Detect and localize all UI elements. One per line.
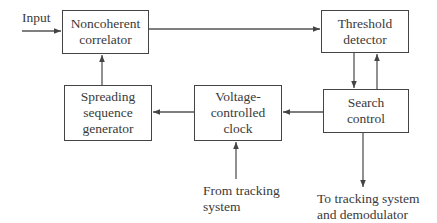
to-tracking-label: To tracking system and demodulator [317, 191, 420, 223]
input-label: Input [22, 10, 51, 26]
block-label-line: controlled [211, 105, 266, 121]
threshold-detector-block: Threshold detector [321, 10, 409, 53]
block-label-line: Voltage- [215, 89, 261, 105]
block-label-line: correlator [79, 32, 131, 48]
block-label-line: Search [348, 95, 385, 111]
block-label-line: detector [343, 32, 386, 48]
voltage-controlled-clock-block: Voltage- controlled clock [194, 85, 282, 141]
block-label-line: Spreading [81, 89, 136, 105]
search-control-block: Search control [323, 89, 409, 133]
label-line: To tracking system [317, 191, 420, 207]
label-line: system [203, 199, 280, 215]
label-line: and demodulator [317, 207, 420, 223]
from-tracking-label: From tracking system [203, 183, 280, 215]
block-label-line: Noncoherent [71, 16, 141, 32]
block-label-line: Threshold [338, 16, 393, 32]
block-label-line: clock [223, 121, 252, 137]
spreading-sequence-generator-block: Spreading sequence generator [64, 85, 152, 141]
block-label-line: generator [83, 121, 134, 137]
block-label-line: control [347, 111, 385, 127]
noncoherent-correlator-block: Noncoherent correlator [62, 10, 149, 54]
block-label-line: sequence [83, 105, 132, 121]
label-line: From tracking [203, 183, 280, 199]
